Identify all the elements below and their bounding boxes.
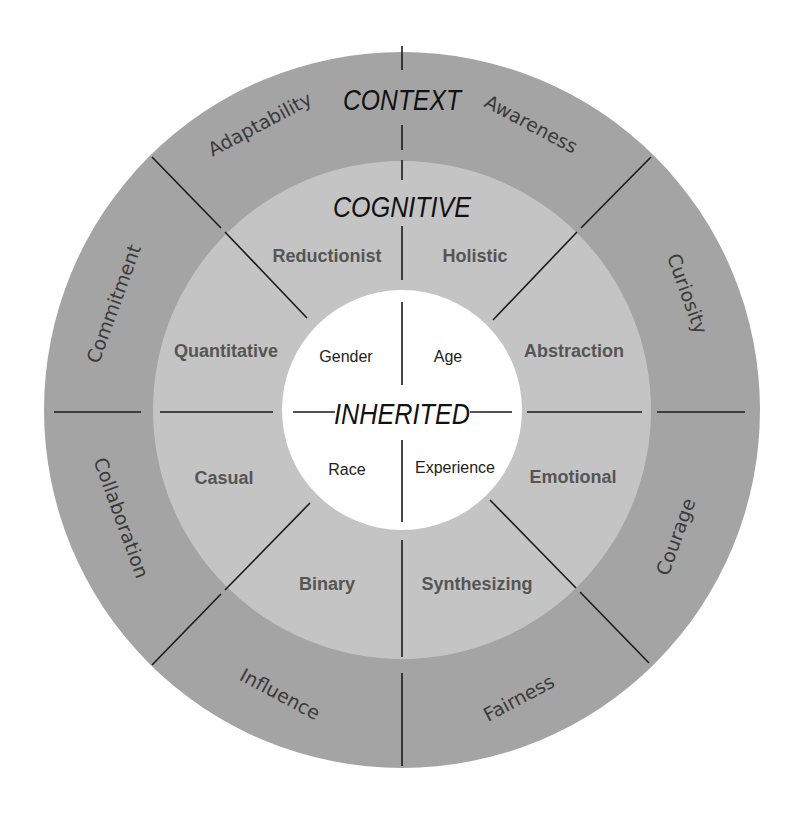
middle-segment-binary: Binary	[299, 574, 355, 594]
middle-ring-title: COGNITIVE	[333, 190, 472, 223]
outer-ring-title: CONTEXT	[343, 83, 463, 116]
identity-diagram: CONTEXT COGNITIVE INHERITED Awareness Cu…	[0, 0, 797, 818]
middle-segment-holistic: Holistic	[442, 246, 507, 266]
middle-segment-abstraction: Abstraction	[524, 341, 624, 361]
inner-segment-age: Age	[434, 348, 463, 365]
inner-segment-race: Race	[328, 461, 365, 478]
middle-segment-synthesizing: Synthesizing	[421, 574, 532, 594]
middle-segment-emotional: Emotional	[529, 467, 616, 487]
inner-segment-gender: Gender	[319, 348, 373, 365]
middle-segment-reductionist: Reductionist	[272, 246, 381, 266]
inner-circle-title: INHERITED	[334, 397, 470, 430]
middle-segment-casual: Casual	[194, 468, 253, 488]
middle-segment-quantitative: Quantitative	[174, 341, 278, 361]
inner-segment-experience: Experience	[415, 459, 495, 476]
